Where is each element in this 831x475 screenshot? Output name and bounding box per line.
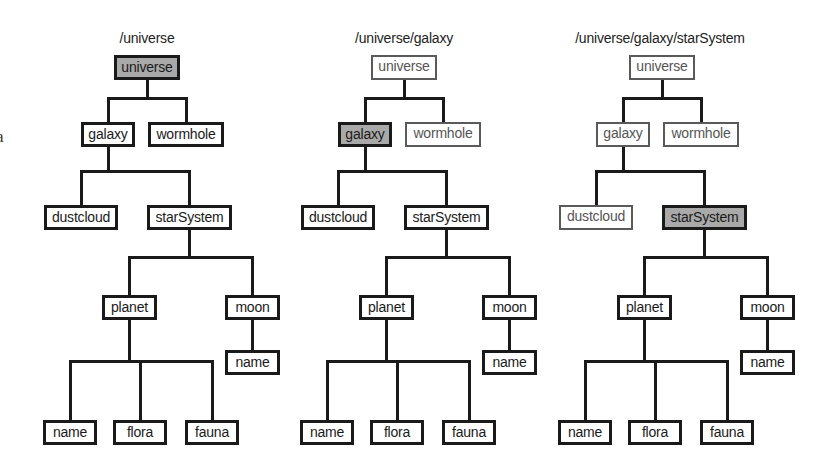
tree-node-planet: planet xyxy=(102,295,157,320)
connector-line xyxy=(385,320,388,363)
connector-line xyxy=(128,320,131,363)
connector-line xyxy=(337,170,340,205)
connector-line xyxy=(364,97,445,100)
tree-node-wormhole: wormhole xyxy=(405,122,481,147)
connector-line xyxy=(726,360,729,420)
tree-node-planet: planet xyxy=(359,295,414,320)
tree-node-planet-name: name xyxy=(558,420,612,445)
tree-node-moon: moon xyxy=(740,295,795,320)
connector-line xyxy=(251,256,254,295)
connector-line xyxy=(80,170,192,173)
tree-node-dustcloud: dustcloud xyxy=(44,205,118,230)
connector-line xyxy=(364,97,367,122)
tree-path-label: /universe/galaxy/starSystem xyxy=(575,30,745,46)
tree-node-dustcloud: dustcloud xyxy=(301,205,375,230)
tree-node-galaxy: galaxy xyxy=(338,122,392,147)
connector-line xyxy=(107,97,188,100)
tree-node-wormhole: wormhole xyxy=(148,122,224,147)
connector-line xyxy=(643,256,646,295)
tree-node-fauna: fauna xyxy=(442,420,496,445)
tree-node-flora: flora xyxy=(113,420,167,445)
tree-node-planet-name: name xyxy=(300,420,354,445)
connector-line xyxy=(584,360,587,420)
tree-node-moon: moon xyxy=(225,295,280,320)
tree-node-fauna: fauna xyxy=(185,420,239,445)
connector-line xyxy=(128,256,254,259)
connector-line xyxy=(654,360,657,420)
connector-line xyxy=(595,170,707,173)
clipped-text-fragment: a xyxy=(0,127,4,147)
connector-line xyxy=(508,256,511,295)
connector-line xyxy=(643,256,769,259)
connector-line xyxy=(128,256,131,295)
connector-line xyxy=(700,97,703,122)
tree-diagram-stage: a /universeuniversegalaxywormholedustclo… xyxy=(0,0,831,475)
connector-line xyxy=(595,170,598,205)
tree-node-moon: moon xyxy=(482,295,537,320)
connector-line xyxy=(107,97,110,122)
connector-line xyxy=(396,360,399,420)
tree-node-moon-name: name xyxy=(225,350,280,375)
tree-node-starSystem: starSystem xyxy=(662,205,747,230)
connector-line xyxy=(766,256,769,295)
tree-node-wormhole: wormhole xyxy=(663,122,739,147)
connector-line xyxy=(326,360,329,420)
tree-node-moon-name: name xyxy=(482,350,537,375)
tree-node-starSystem: starSystem xyxy=(404,205,489,230)
connector-line xyxy=(703,170,706,205)
connector-line xyxy=(643,320,646,363)
connector-line xyxy=(337,170,449,173)
tree-node-planet: planet xyxy=(617,295,672,320)
tree-node-galaxy: galaxy xyxy=(596,122,650,147)
connector-line xyxy=(508,320,511,350)
connector-line xyxy=(188,230,191,259)
connector-line xyxy=(185,97,188,122)
connector-line xyxy=(188,170,191,205)
connector-line xyxy=(80,170,83,205)
connector-line xyxy=(69,360,72,420)
tree-node-dustcloud: dustcloud xyxy=(559,205,633,230)
connector-line xyxy=(385,256,511,259)
connector-line xyxy=(445,170,448,205)
tree-node-universe: universe xyxy=(371,55,437,80)
tree-node-flora: flora xyxy=(628,420,682,445)
tree-node-starSystem: starSystem xyxy=(147,205,232,230)
tree-node-planet-name: name xyxy=(43,420,97,445)
connector-line xyxy=(442,97,445,122)
connector-line xyxy=(622,97,625,122)
tree-node-flora: flora xyxy=(370,420,424,445)
connector-line xyxy=(251,320,254,350)
connector-line xyxy=(703,230,706,259)
tree-node-universe: universe xyxy=(629,55,695,80)
connector-line xyxy=(139,360,142,420)
tree-path-label: /universe xyxy=(119,30,174,46)
tree-node-fauna: fauna xyxy=(700,420,754,445)
connector-line xyxy=(211,360,214,420)
tree-node-universe: universe xyxy=(114,55,180,80)
tree-node-moon-name: name xyxy=(740,350,795,375)
connector-line xyxy=(766,320,769,350)
connector-line xyxy=(385,256,388,295)
connector-line xyxy=(445,230,448,259)
tree-path-label: /universe/galaxy xyxy=(355,30,453,46)
connector-line xyxy=(622,97,703,100)
tree-node-galaxy: galaxy xyxy=(81,122,135,147)
connector-line xyxy=(468,360,471,420)
